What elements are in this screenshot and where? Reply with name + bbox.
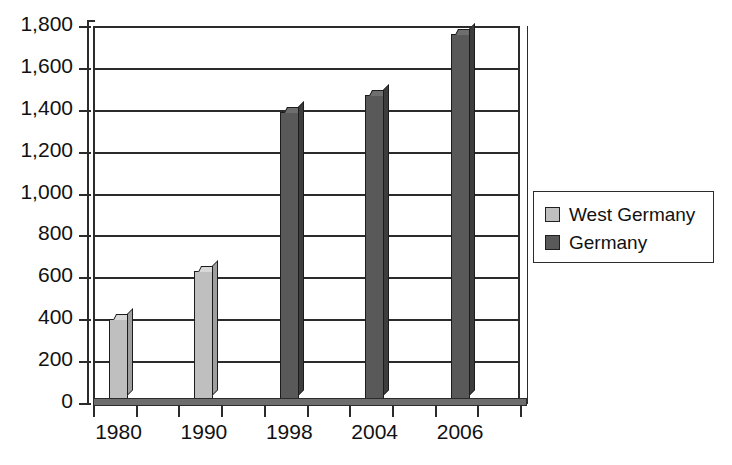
legend: West Germany Germany — [533, 191, 714, 263]
legend-swatch-germany — [545, 235, 560, 250]
y-axis-label-text: 1,200 — [20, 138, 73, 162]
x-axis-tick — [520, 406, 522, 417]
y-axis-tick — [79, 319, 91, 321]
bar-side-face — [127, 308, 133, 396]
y-axis-tick — [79, 361, 91, 363]
bar-side-face — [212, 260, 218, 396]
y-axis-label-text: 0 — [61, 389, 73, 413]
legend-item[interactable]: West Germany — [545, 200, 713, 228]
legend-label-west-germany: West Germany — [569, 205, 695, 224]
x-axis-label: 2004 — [330, 420, 420, 444]
legend-item[interactable]: Germany — [545, 228, 713, 256]
y-axis-label-text: 200 — [38, 347, 73, 371]
x-axis-label: 1998 — [244, 420, 334, 444]
x-axis-tick — [392, 406, 394, 417]
y-axis-tick — [79, 68, 91, 70]
x-axis-tick — [178, 406, 180, 417]
bar[interactable] — [365, 95, 384, 403]
y-axis-label-text: 1,400 — [20, 96, 73, 120]
y-axis-label-text: 400 — [38, 305, 73, 329]
bar-chart: 02004006008001,0001,2001,4001,6001,800 1… — [0, 0, 732, 465]
y-axis-tick — [79, 152, 91, 154]
x-axis-tick — [264, 406, 266, 417]
x-axis-tick — [349, 406, 351, 417]
legend-swatch-west-germany — [545, 207, 560, 222]
bar[interactable] — [280, 112, 299, 403]
plot-floor-right-edge — [520, 26, 528, 404]
bar-side-face — [469, 23, 475, 396]
y-axis-tick — [79, 194, 91, 196]
y-axis-tick — [79, 277, 91, 279]
y-axis-tick — [79, 403, 91, 405]
x-axis-label: 1990 — [159, 420, 249, 444]
x-axis-tick — [93, 406, 95, 417]
x-axis-tick — [221, 406, 223, 417]
x-axis-tick — [435, 406, 437, 417]
plot-floor — [93, 398, 527, 406]
y-axis-label-text: 600 — [38, 263, 73, 287]
y-axis-tick — [79, 235, 91, 237]
x-axis-label: 1980 — [74, 420, 164, 444]
y-axis-tick — [79, 110, 91, 112]
x-axis-tick — [477, 406, 479, 417]
legend-label-germany: Germany — [569, 233, 647, 252]
bar-side-face — [383, 84, 389, 396]
bar[interactable] — [451, 34, 470, 403]
x-axis-label: 2006 — [415, 420, 505, 444]
bar[interactable] — [194, 271, 213, 403]
y-axis-label-text: 1,000 — [20, 180, 73, 204]
x-axis-tick — [136, 406, 138, 417]
y-axis-tick — [79, 26, 91, 28]
y-axis-label-text: 800 — [38, 221, 73, 245]
bar-side-face — [298, 101, 304, 396]
y-axis-label-text: 1,800 — [20, 12, 73, 36]
y-axis-label-text: 1,600 — [20, 54, 73, 78]
x-axis-tick — [307, 406, 309, 417]
bar[interactable] — [109, 319, 128, 403]
